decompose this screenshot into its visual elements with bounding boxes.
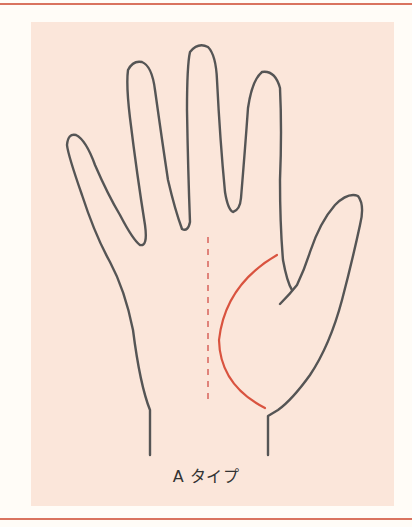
- life-line: [219, 255, 277, 408]
- hand-outline: [67, 45, 292, 455]
- hand-diagram: [0, 0, 412, 527]
- bottom-rule: [0, 518, 412, 520]
- figure-caption: A タイプ: [0, 463, 412, 487]
